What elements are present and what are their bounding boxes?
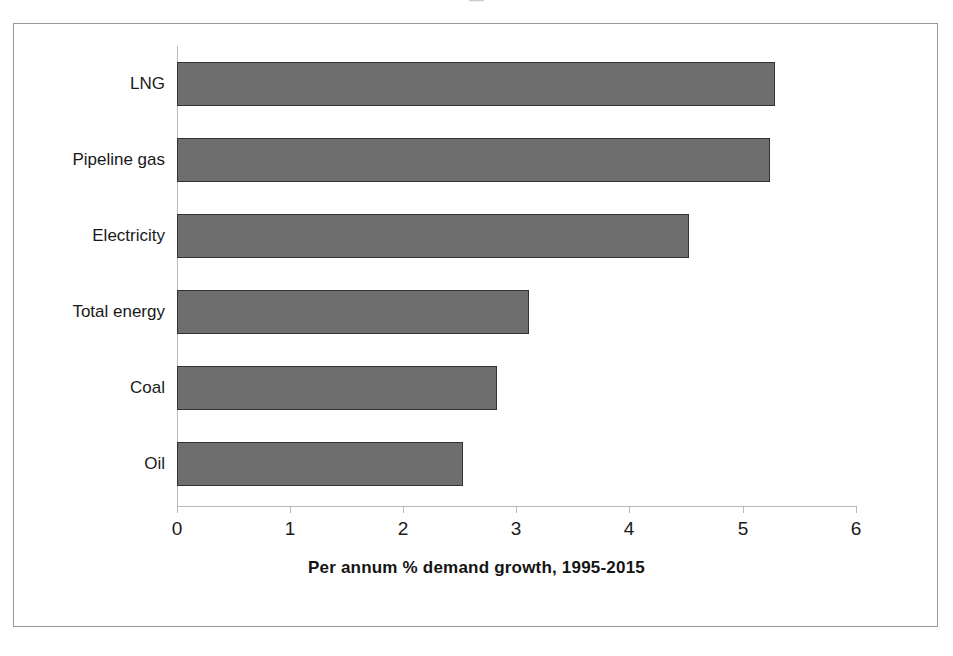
bar-row: Electricity: [177, 198, 856, 274]
x-axis-title: Per annum % demand growth, 1995-2015: [14, 558, 939, 578]
x-tick-mark: [290, 506, 291, 513]
x-tick-label: 4: [609, 518, 649, 540]
bar-row: Pipeline gas: [177, 122, 856, 198]
x-tick-label: 3: [496, 518, 536, 540]
category-label: Electricity: [92, 214, 165, 258]
bar-electricity: [177, 214, 689, 258]
x-tick-label: 5: [723, 518, 763, 540]
x-tick-mark: [177, 506, 178, 513]
category-label: LNG: [130, 62, 165, 106]
category-label: Pipeline gas: [72, 138, 165, 182]
x-tick-mark: [403, 506, 404, 513]
category-label-holder: Oil: [17, 426, 177, 502]
category-label: Coal: [130, 366, 165, 410]
x-tick-mark: [743, 506, 744, 513]
bar-row: LNG: [177, 46, 856, 122]
category-label-holder: Pipeline gas: [17, 122, 177, 198]
bar-row: Coal: [177, 350, 856, 426]
category-label-holder: Coal: [17, 350, 177, 426]
category-label-holder: Electricity: [17, 198, 177, 274]
x-tick-mark: [856, 506, 857, 513]
x-tick-mark: [516, 506, 517, 513]
x-tick-label: 1: [270, 518, 310, 540]
clipped-top-title-artifact: —: [0, 0, 953, 3]
category-label: Oil: [144, 442, 165, 486]
category-label-holder: Total energy: [17, 274, 177, 350]
bar-oil: [177, 442, 463, 486]
bar-pipeline-gas: [177, 138, 770, 182]
chart-frame: LNG Pipeline gas Electricity Total energ…: [13, 23, 938, 627]
bar-row: Total energy: [177, 274, 856, 350]
category-label: Total energy: [72, 290, 165, 334]
category-label-holder: LNG: [17, 46, 177, 122]
bar-coal: [177, 366, 497, 410]
plot-area: LNG Pipeline gas Electricity Total energ…: [177, 46, 856, 506]
x-tick-mark: [629, 506, 630, 513]
bar-lng: [177, 62, 775, 106]
bar-row: Oil: [177, 426, 856, 502]
x-tick-label: 2: [383, 518, 423, 540]
bar-total-energy: [177, 290, 529, 334]
x-tick-label: 6: [836, 518, 876, 540]
x-tick-label: 0: [157, 518, 197, 540]
